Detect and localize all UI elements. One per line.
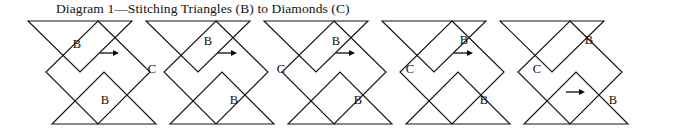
patch-label-b-7: B — [332, 34, 340, 48]
patch-label-c-11: C — [533, 62, 541, 76]
top-triangle-b-4 — [382, 21, 486, 72]
seam-arrow-head-4 — [467, 50, 473, 56]
seam-arrow-head-1 — [113, 50, 119, 56]
stitching-diagram: BCBBCBBCBBCBBB — [0, 0, 696, 135]
patch-label-c-2: C — [148, 62, 156, 76]
patch-label-b-13: B — [585, 33, 593, 47]
bottom-triangle-b-4 — [406, 72, 510, 124]
diamond-c-1 — [46, 21, 150, 124]
patch-label-c-5: C — [277, 62, 285, 76]
top-triangle-b-2 — [146, 21, 250, 72]
seam-arrow-head-5 — [579, 89, 585, 95]
patch-label-b-6: B — [230, 93, 238, 107]
seam-arrow-head-3 — [349, 50, 355, 56]
bottom-triangle-b-2 — [170, 72, 274, 124]
seam-arrows-layer — [100, 50, 585, 95]
patch-label-b-14: B — [609, 93, 617, 107]
diagram-figure: Diagram 1—Stitching Triangles (B) to Dia… — [0, 0, 696, 135]
diamond-c-2 — [164, 21, 268, 124]
patch-label-b-4: B — [204, 34, 212, 48]
bottom-triangle-b-3 — [288, 72, 392, 124]
patch-label-b-10: B — [460, 33, 468, 47]
patch-label-b-3: B — [101, 93, 109, 107]
patch-label-b-12: B — [480, 93, 488, 107]
patch-label-b-1: B — [73, 37, 81, 51]
patch-label-c-8: C — [406, 62, 414, 76]
patch-label-b-9: B — [354, 93, 362, 107]
diamond-c-4 — [400, 21, 504, 124]
seam-arrow-head-2 — [231, 50, 237, 56]
